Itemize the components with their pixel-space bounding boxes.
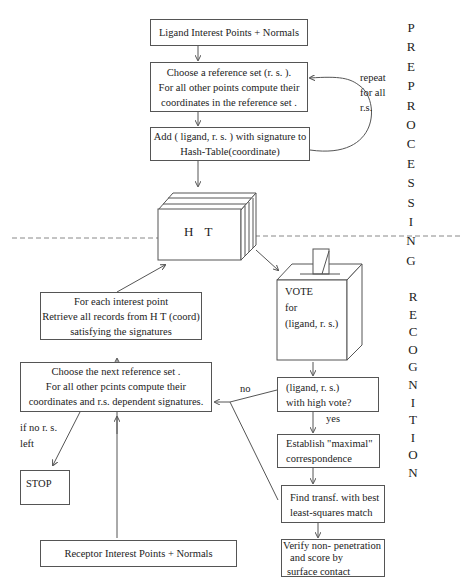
hash-table-label: H T	[184, 224, 216, 240]
high-vote-decision-box: (ligand, r. s.) with high vote?	[277, 377, 379, 412]
choose-ref-line-2: For all other points compute their	[151, 80, 307, 95]
choose-ref-line-1: Choose a reference set (r. s. ).	[151, 65, 307, 80]
add-hash-line-1: Add ( ligand, r. s. ) with signature to	[151, 129, 309, 144]
ligand-input-text: Ligand Interest Points + Normals	[151, 25, 307, 40]
if-no-rs-left-label: if no r. s. left	[20, 420, 57, 452]
choose-ref-line-3: coordinates in the reference set .	[151, 95, 307, 110]
no-edge-label: no	[240, 381, 251, 396]
find-transformation-box: Find transf. with best least-squares mat…	[281, 485, 385, 523]
retrieve-records-box: For each interest point Retrieve all rec…	[40, 292, 202, 340]
vote-text: VOTE for (ligand, r. s.)	[285, 284, 338, 332]
choose-reference-set-box: Choose a reference set (r. s. ). For all…	[150, 62, 308, 112]
preprocessing-section-label: P R E P R O C E S S I N G	[403, 18, 419, 270]
add-hash-line-2: Hash-Table(coordinate)	[151, 144, 309, 159]
ligand-input-box: Ligand Interest Points + Normals	[150, 19, 308, 46]
receptor-input-box: Receptor Interest Points + Normals	[40, 540, 237, 567]
stop-box: STOP	[20, 470, 70, 505]
establish-correspondence-box: Establish "maximal" correspondence	[277, 434, 380, 468]
add-to-hash-table-box: Add ( ligand, r. s. ) with signature to …	[150, 127, 310, 161]
yes-edge-label: yes	[326, 411, 340, 426]
recognition-section-label: R E C O G N I T I O N	[405, 288, 421, 482]
verify-penetration-box: Verify non- penetration and score by sur…	[281, 539, 385, 577]
choose-next-reference-set-box: Choose the next reference set . For all …	[20, 362, 212, 412]
repeat-label: repeat for all r.s.	[360, 70, 386, 115]
